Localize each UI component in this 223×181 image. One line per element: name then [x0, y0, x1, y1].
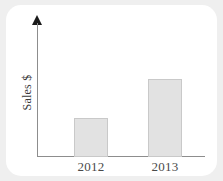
y-axis-title: Sales $ [20, 58, 35, 128]
bar-chart: Sales $ 2012 2013 [6, 5, 217, 176]
chart-card: Sales $ 2012 2013 [6, 5, 217, 176]
bar-2013 [148, 79, 182, 157]
x-tick-label-2012: 2012 [61, 159, 121, 175]
bar-2012 [74, 118, 108, 157]
x-tick-label-2013: 2013 [135, 159, 195, 175]
y-axis-line [37, 23, 38, 157]
